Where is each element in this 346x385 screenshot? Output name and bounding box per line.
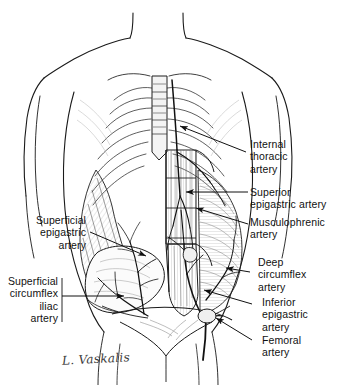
inguinal-region	[102, 306, 232, 382]
label-musculophrenic-artery: Musculophrenic artery	[250, 216, 325, 241]
label-inferior-epigastric-artery: Inferior epigastric artery	[262, 296, 308, 333]
sternum	[152, 76, 167, 160]
artery-internal-thoracic	[172, 80, 177, 150]
anatomical-illustration: Internal thoracic artery Superior epigas…	[0, 0, 346, 385]
label-femoral-artery: Femoral artery	[262, 334, 301, 359]
reflected-fascia-flap	[85, 246, 164, 313]
label-internal-thoracic-artery: Internal thoracic artery	[250, 138, 288, 175]
leader-femoral	[216, 318, 252, 340]
label-deep-circumflex-artery: Deep circumflex artery	[258, 256, 306, 293]
label-superficial-circumflex-iliac-artery: Superficial circumflex iliac artery	[0, 275, 58, 325]
umbilicus	[183, 247, 197, 262]
label-superior-epigastric-artery: Superior epigastric artery	[250, 186, 326, 211]
label-superficial-epigastric-artery: Superficial epigastric artery	[0, 214, 86, 251]
